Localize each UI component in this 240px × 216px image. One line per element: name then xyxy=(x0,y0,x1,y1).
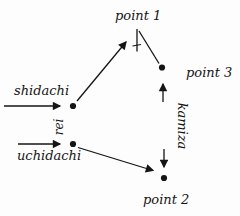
uchidachi-to-point2-arrow xyxy=(78,148,153,171)
point3-label: point 3 xyxy=(186,66,232,79)
kata-movement-diagram: point 1 point 3 point 2 shidachi uchidac… xyxy=(0,0,240,216)
kamiza-label: kamiza xyxy=(176,103,189,150)
shidachi-label: shidachi xyxy=(14,84,69,97)
point3-dot xyxy=(159,64,165,70)
point1-to-point3-line xyxy=(139,31,159,64)
point2-dot xyxy=(161,175,167,181)
point2-label: point 2 xyxy=(143,193,189,206)
uchidachi-label: uchidachi xyxy=(17,149,81,162)
diagram-canvas xyxy=(0,0,240,216)
shidachi-to-point1-arrow xyxy=(77,42,126,101)
shidachi-start-dot xyxy=(70,103,76,109)
point1-label: point 1 xyxy=(115,9,161,22)
uchidachi-start-dot xyxy=(70,141,76,147)
rei-label: rei xyxy=(53,119,65,136)
